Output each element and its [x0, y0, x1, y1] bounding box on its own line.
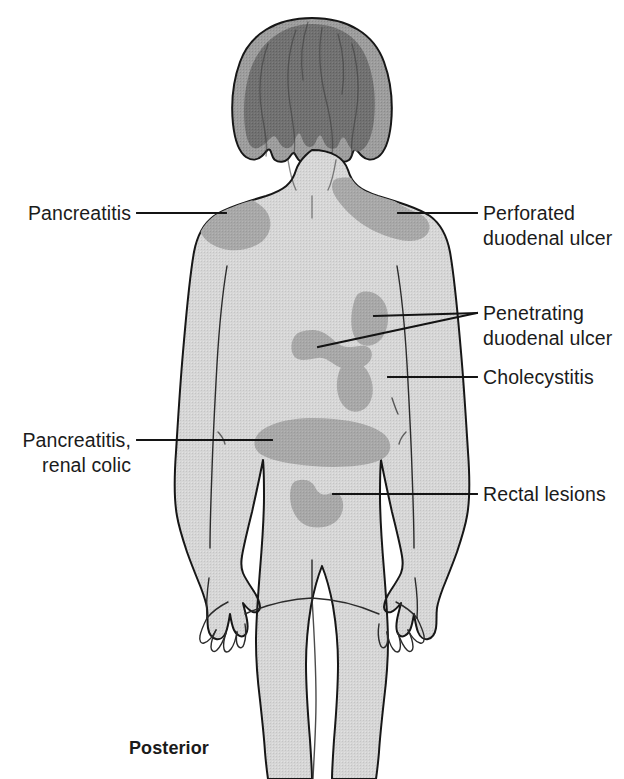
label-penetrating-duodenal-ulcer-line2: duodenal ulcer: [483, 327, 613, 349]
label-perforated-duodenal-ulcer-line1: Perforated: [483, 202, 575, 224]
label-pancreatitis-renal-colic-line1: Pancreatitis,: [22, 429, 131, 451]
label-cholecystitis: Cholecystitis: [483, 366, 594, 388]
label-penetrating-duodenal-ulcer-line1: Penetrating: [483, 302, 584, 324]
diagram-canvas: Pancreatitis Pancreatitis, renal colic P…: [0, 0, 624, 779]
label-posterior: Posterior: [129, 738, 209, 758]
body-figure: [175, 150, 470, 779]
label-pancreatitis: Pancreatitis: [28, 202, 131, 224]
referred-pain-diagram: Pancreatitis Pancreatitis, renal colic P…: [0, 0, 624, 779]
label-perforated-duodenal-ulcer-line2: duodenal ulcer: [483, 227, 613, 249]
hair: [232, 18, 392, 162]
label-rectal-lesions: Rectal lesions: [483, 483, 606, 505]
label-pancreatitis-renal-colic-line2: renal colic: [42, 454, 131, 476]
